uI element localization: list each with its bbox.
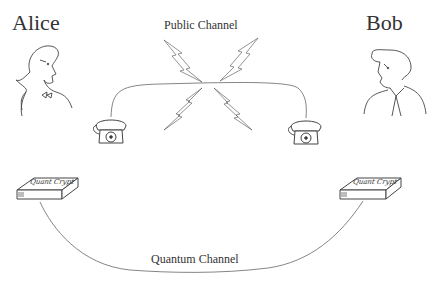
quantum-channel-label: Quantum Channel (151, 252, 239, 267)
bob-label: Bob (366, 10, 403, 36)
telephone-icon (288, 121, 321, 144)
diagram-canvas (0, 0, 436, 290)
alice-device-label: Quant Crypt (29, 178, 74, 186)
lightning-bolt-icon (164, 88, 202, 130)
public-channel-label: Public Channel (164, 18, 238, 33)
lightning-bolt-icon (214, 88, 252, 130)
bob-device-label: Quant Crypt (352, 178, 397, 186)
lightning-bolt-icon (164, 40, 202, 82)
lightning-bolt-icon (220, 38, 258, 81)
person-bob-icon (364, 50, 426, 116)
public-channel-line (111, 83, 306, 118)
telephone-icon (93, 120, 126, 143)
alice-label: Alice (12, 10, 60, 36)
person-alice-icon (16, 46, 72, 116)
